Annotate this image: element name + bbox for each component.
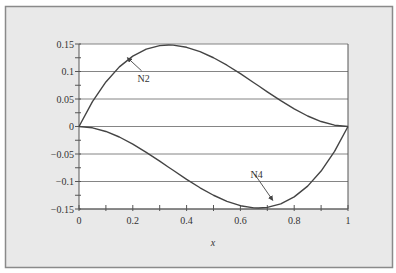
chart-svg: 00.20.40.60.81 0.150.10.050−0.05−0.1−0.1… xyxy=(0,0,396,273)
x-tick-label: 0.8 xyxy=(288,215,301,226)
x-axis-label: x xyxy=(210,237,216,248)
x-tick-label: 0 xyxy=(77,215,82,226)
y-tick-label: 0 xyxy=(69,121,74,132)
y-tick-label: −0.05 xyxy=(51,149,74,160)
y-tick-label: −0.15 xyxy=(51,204,74,215)
x-tick-label: 0.4 xyxy=(180,215,193,226)
y-tick-label: 0.1 xyxy=(62,66,75,77)
x-tick-label: 0.2 xyxy=(127,215,140,226)
chart-figure: 00.20.40.60.81 0.150.10.050−0.05−0.1−0.1… xyxy=(0,0,396,273)
annotation-label-n2: N2 xyxy=(137,73,149,84)
x-tick-label: 0.6 xyxy=(234,215,247,226)
annotation-label-n4: N4 xyxy=(250,169,262,180)
x-tick-label: 1 xyxy=(346,215,351,226)
y-tick-label: −0.1 xyxy=(56,176,74,187)
y-tick-label: 0.05 xyxy=(57,94,75,105)
y-tick-label: 0.15 xyxy=(57,39,75,50)
